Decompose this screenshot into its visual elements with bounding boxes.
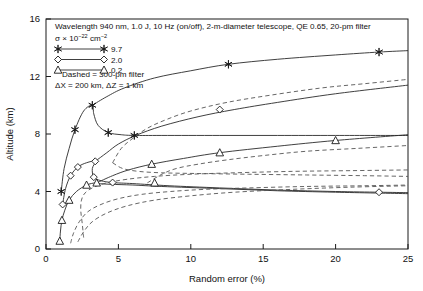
marker-diamond [59, 201, 66, 208]
x-tick-label: 25 [403, 253, 414, 264]
lidar-random-error-chart: 0510152025 0481216 Random error (%) Alti… [0, 0, 423, 291]
legend-label: 9.7 [111, 45, 123, 54]
annotation-parameters: Wavelength 940 nm, 1.0 J, 10 Hz (on/off)… [55, 22, 371, 31]
x-tick-label: 20 [330, 253, 341, 264]
series-curve [147, 146, 408, 183]
marker-triangle [151, 179, 159, 186]
y-tick-label: 8 [35, 128, 40, 139]
legend-marker-diamond [55, 56, 62, 63]
legend-marker-diamond [101, 56, 108, 63]
y-axis-label: Altitude (km) [4, 107, 15, 160]
marker-star [105, 128, 112, 136]
annotation-cross-section: σ × 10−22 cm−2 [55, 33, 107, 43]
x-tick-label: 5 [116, 253, 121, 264]
x-tick-label: 0 [43, 253, 48, 264]
y-tick-label: 16 [29, 13, 40, 24]
marker-diamond [109, 179, 116, 186]
marker-diamond [376, 189, 383, 196]
legend-label: 0.2 [111, 66, 123, 75]
series-curve [97, 135, 408, 183]
marker-diamond [67, 172, 74, 179]
series-curve [71, 185, 408, 243]
marker-triangle [83, 181, 91, 188]
y-tick-label: 0 [35, 243, 40, 254]
legend-label: 2.0 [111, 56, 123, 65]
marker-triangle [56, 237, 64, 244]
x-tick-label: 15 [258, 253, 269, 264]
y-axis-ticks: 0481216 [29, 13, 51, 254]
marker-diamond [92, 158, 99, 165]
marker-triangle [65, 196, 73, 203]
annotation-resolution: ΔX = 200 km, ΔZ = 1 km [55, 81, 143, 90]
x-axis-ticks: 0510152025 [43, 244, 413, 264]
series-curve [113, 79, 408, 162]
x-axis-label: Random error (%) [189, 273, 265, 284]
marker-star [71, 126, 78, 134]
x-tick-label: 10 [186, 253, 197, 264]
series-curve [113, 163, 408, 177]
y-tick-label: 12 [29, 71, 40, 82]
y-tick-label: 4 [35, 186, 40, 197]
series-curve [81, 170, 408, 238]
series-curve [95, 85, 408, 161]
series-curve [78, 186, 408, 242]
marker-triangle [58, 216, 66, 223]
series-curve [61, 105, 408, 191]
marker-star [58, 187, 65, 195]
data-curves [60, 51, 408, 244]
